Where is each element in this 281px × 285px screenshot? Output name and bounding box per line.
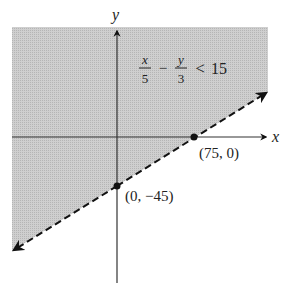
svg-text:y: y: [176, 52, 184, 67]
point-y-intercept: [114, 183, 121, 190]
inequality-graph: y x (75, 0) (0, −45) x 5 − y 3 < 15: [0, 0, 281, 285]
shaded-region: [12, 27, 268, 251]
svg-text:−: −: [159, 60, 167, 76]
svg-text:3: 3: [178, 71, 185, 86]
point-label-75-0: (75, 0): [199, 145, 239, 162]
svg-text:5: 5: [142, 71, 149, 86]
svg-text:15: 15: [211, 60, 227, 77]
svg-text:<: <: [195, 59, 205, 78]
y-axis-label: y: [110, 6, 120, 24]
svg-text:x: x: [141, 52, 148, 67]
point-label-0-neg45: (0, −45): [125, 188, 173, 205]
x-axis-label: x: [271, 128, 279, 145]
point-x-intercept: [191, 134, 198, 141]
